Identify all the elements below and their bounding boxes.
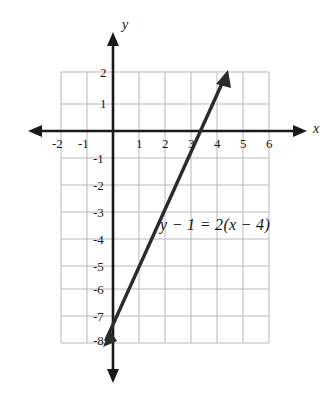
equation-annotation: y − 1 = 2(x − 4)	[160, 216, 270, 234]
x-tick-neg2: -2	[52, 137, 63, 150]
x-axis-label: x	[313, 122, 319, 136]
graph-canvas	[0, 0, 335, 393]
y-tick-2: 2	[100, 66, 107, 79]
y-tick-neg7: -7	[93, 310, 104, 323]
y-tick-neg6: -6	[93, 283, 104, 296]
y-tick-neg2: -2	[93, 179, 104, 192]
y-tick-neg8: -8	[93, 334, 104, 347]
x-tick-neg1: -1	[78, 137, 89, 150]
x-tick-4: 4	[214, 137, 221, 150]
y-tick-neg3: -3	[93, 206, 104, 219]
x-tick-5: 5	[240, 137, 247, 150]
plotted-line	[103, 70, 231, 347]
x-axis-left-arrowhead	[28, 125, 42, 137]
coordinate-plane-figure: y x -2 -1 1 2 3 4 5 6 2 1 -1 -2 -3 -4 -5…	[0, 0, 335, 393]
y-tick-neg4: -4	[93, 233, 104, 246]
y-tick-neg5: -5	[93, 260, 104, 273]
x-tick-3: 3	[188, 137, 195, 150]
x-tick-1: 1	[136, 137, 143, 150]
y-tick-neg1: -1	[93, 152, 104, 165]
x-tick-6: 6	[266, 137, 273, 150]
x-axis-right-arrowhead	[293, 125, 307, 137]
y-axis-top-arrowhead	[107, 32, 119, 46]
x-tick-2: 2	[162, 137, 169, 150]
y-tick-1: 1	[100, 97, 107, 110]
y-axis-bottom-arrowhead	[107, 369, 119, 383]
line-upper-arrowhead	[216, 70, 231, 88]
y-axis-label: y	[122, 18, 128, 32]
